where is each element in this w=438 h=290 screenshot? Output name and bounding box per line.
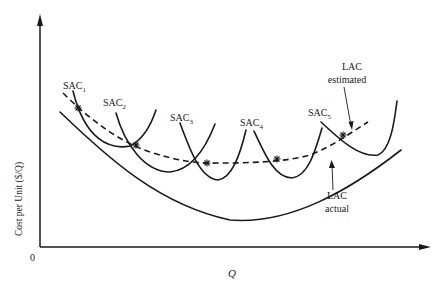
sac3-label: SAC3 [170,112,193,126]
asterisk-icon [133,142,140,149]
sac2-curve [116,113,215,172]
sac1-label: SAC1 [63,80,86,94]
x-axis-label: Q [228,267,236,279]
lac-actual-pointer [332,165,333,190]
axes [37,14,431,250]
sac4-curve [254,128,322,178]
lac-estimated-arrow-icon [349,121,354,130]
cost-curve-diagram: 0 Q Cost per Unit ($/Q) SAC [0,0,438,290]
sac2-label: SAC2 [103,97,126,111]
lac-actual-label-line2: actual [325,203,349,214]
lac-actual-curve [60,112,401,220]
sac5-label: SAC5 [308,107,331,121]
y-axis-label: Cost per Unit ($/Q) [14,162,25,236]
sac3-curve [180,123,246,180]
lac-actual-arrow-icon [329,160,335,168]
lac-estimated-label-line1: LAC [342,61,362,72]
origin-label: 0 [30,252,35,263]
sac4-label: SAC4 [240,117,263,131]
x-axis-arrow-icon [419,244,431,250]
y-axis-arrow-icon [37,14,43,26]
asterisk-icon [75,105,82,112]
asterisk-icon [274,156,281,163]
asterisk-icon [204,160,211,167]
asterisk-icon [340,132,347,139]
lac-estimated-label-line2: estimated [328,74,366,85]
lac-estimated-pointer [344,87,351,126]
lac-actual-label-line1: LAC [327,190,347,201]
